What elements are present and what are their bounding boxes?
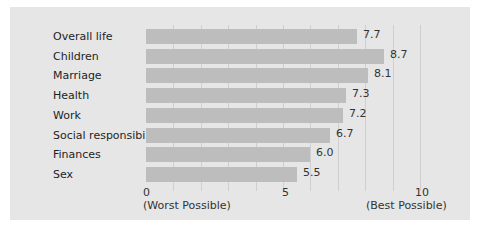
chart-panel: Overall life7.7Children8.7Marriage8.1Hea… xyxy=(10,7,470,220)
bar xyxy=(146,108,343,123)
value-label: 7.7 xyxy=(363,28,381,42)
x-axis-min-label: (Worst Possible) xyxy=(143,199,231,212)
category-label: Finances xyxy=(53,148,101,162)
x-tick-10: 10 xyxy=(415,186,429,199)
x-axis-max-label: (Best Possible) xyxy=(366,199,447,212)
category-label: Marriage xyxy=(53,69,102,83)
bar xyxy=(146,49,384,64)
bar xyxy=(146,68,368,83)
bar xyxy=(146,88,346,103)
value-label: 7.3 xyxy=(352,87,370,101)
bar xyxy=(146,147,310,162)
category-label: Health xyxy=(53,89,89,103)
value-label: 7.2 xyxy=(349,107,367,121)
x-tick-0: 0 xyxy=(143,186,150,199)
value-label: 8.1 xyxy=(374,67,392,81)
category-label: Sex xyxy=(53,168,73,182)
value-label: 6.0 xyxy=(316,146,334,160)
x-tick-5: 5 xyxy=(282,186,289,199)
bar xyxy=(146,167,297,182)
bar xyxy=(146,128,330,143)
value-label: 6.7 xyxy=(336,127,354,141)
bar xyxy=(146,29,357,44)
value-label: 5.5 xyxy=(303,166,321,180)
gridline xyxy=(420,25,421,191)
category-label: Work xyxy=(53,109,81,123)
value-label: 8.7 xyxy=(390,48,408,62)
category-label: Overall life xyxy=(53,30,113,44)
category-label: Children xyxy=(53,50,99,64)
